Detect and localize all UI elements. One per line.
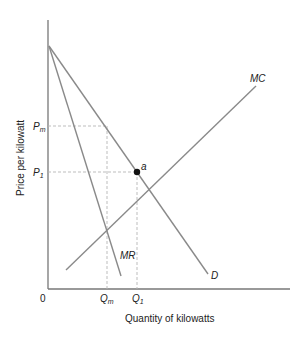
p1-tick-label: P1 [33,167,44,179]
q1-tick-label: Q1 [132,293,144,305]
marginal-cost-curve [66,86,256,270]
origin-label: 0 [40,293,46,304]
point-a-label: a [141,161,147,172]
qm-tick-label: Qm [100,293,114,305]
mc-label: MC [250,73,266,84]
y-axis-title: Price per kilowatt [15,120,26,196]
point-a-marker [134,169,140,175]
chart: a MC MR D Pm P1 0 Qm Q1 Quantity of kilo… [0,0,301,338]
mr-label: MR [120,250,136,261]
pm-tick-label: Pm [33,121,46,133]
marginal-revenue-curve [49,46,121,276]
x-axis-title: Quantity of kilowatts [125,313,214,324]
d-label: D [211,270,218,281]
demand-curve [49,46,208,274]
